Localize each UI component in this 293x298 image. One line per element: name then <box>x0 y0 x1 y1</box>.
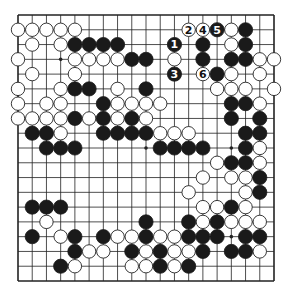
white-stone <box>168 260 181 273</box>
black-stone <box>139 126 153 140</box>
black-stone <box>224 52 238 66</box>
black-stone <box>125 126 139 140</box>
white-stone <box>68 53 81 66</box>
white-stone <box>11 112 24 125</box>
white-stone <box>253 245 266 258</box>
black-stone <box>224 244 238 258</box>
black-stone <box>54 259 68 273</box>
move-number: 6 <box>199 68 207 81</box>
white-stone <box>54 97 67 110</box>
white-stone <box>253 215 266 228</box>
white-stone <box>253 141 266 154</box>
white-stone <box>139 112 152 125</box>
move-number: 3 <box>171 68 179 81</box>
white-stone <box>68 23 81 36</box>
black-stone <box>96 97 110 111</box>
star-point <box>144 146 148 150</box>
black-stone <box>182 141 196 155</box>
black-stone <box>39 126 53 140</box>
white-stone <box>54 127 67 140</box>
white-stone <box>11 82 24 95</box>
black-stone <box>196 37 210 51</box>
white-stone <box>225 82 238 95</box>
black-stone <box>238 126 252 140</box>
black-stone <box>253 185 267 199</box>
white-stone <box>40 215 53 228</box>
black-stone <box>96 111 110 125</box>
numbered-white-stone: 4 <box>196 23 209 37</box>
black-stone <box>238 52 252 66</box>
black-stone <box>153 141 167 155</box>
white-stone <box>26 38 39 51</box>
black-stone <box>139 230 153 244</box>
white-stone <box>239 215 252 228</box>
white-stone <box>210 82 223 95</box>
white-stone <box>125 260 138 273</box>
black-stone <box>96 37 110 51</box>
black-stone <box>210 230 224 244</box>
white-stone <box>267 82 280 95</box>
white-stone <box>182 127 195 140</box>
white-stone <box>11 97 24 110</box>
white-stone <box>54 82 67 95</box>
white-stone <box>26 23 39 36</box>
white-stone <box>196 215 209 228</box>
black-stone <box>68 230 82 244</box>
white-stone <box>225 38 238 51</box>
black-stone <box>139 215 153 229</box>
white-stone <box>40 112 53 125</box>
black-stone <box>253 230 267 244</box>
white-stone <box>253 67 266 80</box>
black-stone <box>153 259 167 273</box>
white-stone <box>210 156 223 169</box>
white-stone <box>97 245 110 258</box>
black-stone <box>25 230 39 244</box>
black-stone <box>238 230 252 244</box>
white-stone <box>154 127 167 140</box>
white-stone <box>82 245 95 258</box>
black-stone <box>196 141 210 155</box>
black-stone <box>54 200 68 214</box>
white-stone <box>40 97 53 110</box>
black-stone <box>39 141 53 155</box>
white-stone <box>111 230 124 243</box>
black-stone <box>68 82 82 96</box>
white-stone <box>139 245 152 258</box>
white-stone <box>253 97 266 110</box>
numbered-white-stone: 6 <box>196 67 209 81</box>
white-stone <box>182 245 195 258</box>
black-stone <box>238 141 252 155</box>
white-stone <box>97 53 110 66</box>
white-stone <box>68 260 81 273</box>
white-stone <box>139 97 152 110</box>
black-stone <box>224 111 238 125</box>
move-number: 5 <box>213 24 221 37</box>
star-point <box>230 146 234 150</box>
white-stone <box>40 23 53 36</box>
white-stone <box>154 230 167 243</box>
numbered-white-stone: 2 <box>182 23 195 37</box>
black-stone <box>238 244 252 258</box>
black-stone <box>224 156 238 170</box>
black-stone <box>125 52 139 66</box>
white-stone <box>168 245 181 258</box>
white-stone <box>26 112 39 125</box>
white-stone <box>239 171 252 184</box>
white-stone <box>82 53 95 66</box>
black-stone <box>25 200 39 214</box>
white-stone <box>253 53 266 66</box>
star-point <box>230 235 234 239</box>
black-stone <box>68 111 82 125</box>
black-stone <box>238 37 252 51</box>
white-stone <box>225 171 238 184</box>
black-stone <box>82 82 96 96</box>
white-stone <box>154 97 167 110</box>
white-stone <box>111 53 124 66</box>
white-stone <box>196 171 209 184</box>
white-stone <box>68 67 81 80</box>
white-stone <box>239 82 252 95</box>
black-stone <box>182 230 196 244</box>
black-stone <box>167 141 181 155</box>
white-stone <box>26 67 39 80</box>
white-stone <box>225 67 238 80</box>
